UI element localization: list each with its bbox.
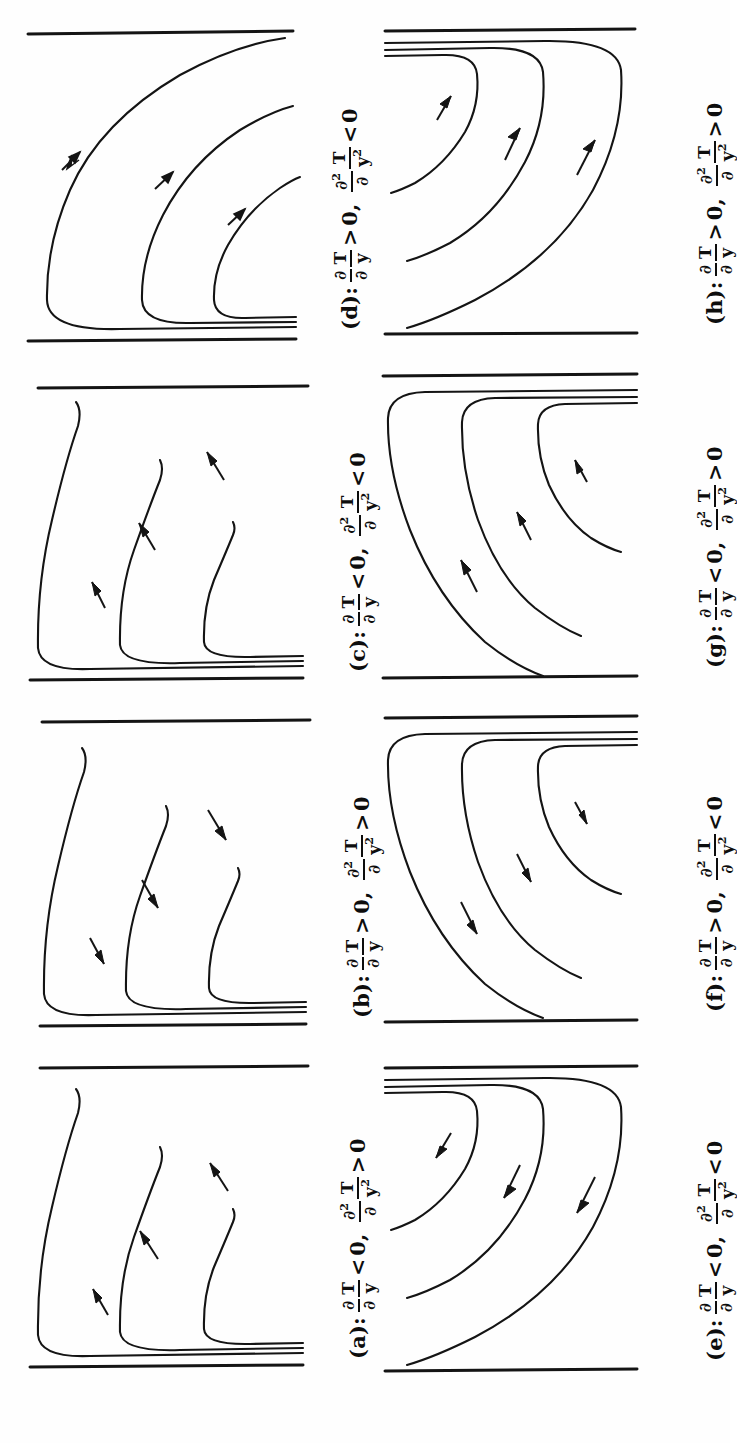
panel-g-second-den-var: y xyxy=(717,495,737,505)
panel-g-first-value: 0 xyxy=(702,549,727,564)
panel-f-second-num-var: T xyxy=(696,835,714,857)
panel-h-second-num-var: T xyxy=(696,141,714,163)
panel-e-tag: (e): xyxy=(702,1315,727,1361)
panel-a-first-num: ∂ xyxy=(340,1299,358,1312)
panel-e-second-sup: 2 xyxy=(695,1205,708,1213)
panel-c-second-num-var: T xyxy=(339,491,357,513)
panel-a-first-num-var: T xyxy=(340,1280,358,1297)
panel-h-second-num: ∂ xyxy=(696,175,716,184)
panel-e-first-value: 0 xyxy=(702,1243,727,1258)
panel-g-second-sup: 2 xyxy=(695,511,708,519)
panel-g-second-den: ∂ xyxy=(717,515,737,524)
panel-e-first-den: ∂ xyxy=(715,1301,735,1314)
panel-h-first-num: ∂ xyxy=(697,263,715,276)
panel-g-first-den: ∂ xyxy=(715,607,735,620)
panel-g-second-value: 0 xyxy=(702,446,727,461)
panel-b-first-num-var: T xyxy=(344,938,362,955)
panel-f: (f):∂∂Ty>0, ∂2∂Ty2<0 xyxy=(365,710,730,1070)
panel-h: (h):∂∂Ty>0, ∂2∂Ty2>0 xyxy=(365,0,730,360)
panel-e-first-relation: < xyxy=(703,1258,727,1281)
panel-c: (c):∂∂Ty<0, ∂2∂Ty2<0 xyxy=(0,360,365,720)
panel-g-second-den-sup: 2 xyxy=(716,487,729,495)
panel-h-label: (h):∂∂Ty>0, ∂2∂Ty2>0 xyxy=(697,102,737,325)
panel-d-second-num: ∂ xyxy=(331,181,351,190)
panel-g-second-relation: > xyxy=(703,461,727,484)
panel-f-first-num: ∂ xyxy=(697,956,715,969)
panel-g-second-num-var: T xyxy=(696,485,714,507)
panel-f-first-den-var: y xyxy=(715,937,735,954)
panel-f-first-value: 0 xyxy=(702,899,727,914)
panel-e-label: (e):∂∂Ty<0, ∂2∂Ty2<0 xyxy=(697,1140,737,1361)
panel-e-first-den-var: y xyxy=(715,1282,735,1299)
panel-b-second-num: ∂ xyxy=(343,869,363,878)
panel-g-tag: (g): xyxy=(702,621,727,668)
panel-d-tag: (d): xyxy=(337,283,362,330)
panel-f-tag: (f): xyxy=(702,971,727,1012)
panel-h-first-den: ∂ xyxy=(715,263,735,276)
panel-e-second-relation: < xyxy=(703,1155,727,1178)
panel-d: (d):∂∂Ty>0, ∂2∂Ty2<0 xyxy=(0,0,365,360)
panel-h-first-den-var: y xyxy=(715,244,735,261)
panel-a-second-num-var: T xyxy=(339,1177,357,1199)
panel-c-second-sup: 2 xyxy=(338,517,351,525)
panel-g-label: (g):∂∂Ty<0, ∂2∂Ty2>0 xyxy=(697,446,737,668)
panel-h-second-den-var: y xyxy=(717,151,737,161)
panel-b: (b):∂∂Ty>0, ∂2∂Ty2>0 xyxy=(0,710,365,1070)
panel-e-first-num: ∂ xyxy=(697,1301,715,1314)
panel-h-second-den-sup: 2 xyxy=(716,143,729,151)
panel-d-first-num-var: T xyxy=(332,250,350,267)
panel-f-second-den-sup: 2 xyxy=(716,837,729,845)
panel-e-second-den: ∂ xyxy=(717,1209,737,1218)
panel-e-second-value: 0 xyxy=(702,1140,727,1155)
panel-b-drawing xyxy=(0,710,365,1070)
panel-f-first-den: ∂ xyxy=(715,956,735,969)
panel-f-label: (f):∂∂Ty>0, ∂2∂Ty2<0 xyxy=(697,796,737,1012)
panel-g-first-relation: < xyxy=(703,564,727,587)
panel-f-first-relation: > xyxy=(703,913,727,936)
panel-b-second-sup: 2 xyxy=(342,861,355,869)
panel-d-comma: , xyxy=(337,200,362,211)
panel-h-second-sup: 2 xyxy=(695,167,708,175)
panel-e-second-num: ∂ xyxy=(696,1213,716,1222)
panel-d-drawing xyxy=(0,0,365,360)
panel-h-second-den: ∂ xyxy=(717,171,737,180)
panel-d-second-den-sup: 2 xyxy=(351,149,364,157)
panel-e: (e):∂∂Ty<0, ∂2∂Ty2<0 xyxy=(365,1063,730,1423)
panel-h-drawing xyxy=(365,0,730,360)
panel-e-comma: , xyxy=(702,1233,727,1244)
panel-d-second-value: 0 xyxy=(337,108,362,123)
panel-h-tag: (h): xyxy=(702,277,727,325)
panel-f-second-relation: < xyxy=(703,811,727,834)
panel-g-second-num: ∂ xyxy=(696,519,716,528)
panel-e-second-den-var: y xyxy=(717,1189,737,1199)
panel-a: (a):∂∂Ty<0, ∂2∂Ty2>0 xyxy=(0,1063,365,1423)
panel-g: (g):∂∂Ty<0, ∂2∂Ty2>0 xyxy=(365,360,730,720)
panel-e-second-den-sup: 2 xyxy=(716,1181,729,1189)
panel-a-drawing xyxy=(0,1063,365,1423)
panel-f-second-value: 0 xyxy=(702,796,727,811)
panel-a-second-num: ∂ xyxy=(339,1211,359,1220)
panel-c-second-num: ∂ xyxy=(339,525,359,534)
panel-g-first-den-var: y xyxy=(715,588,735,605)
panel-e-second-num-var: T xyxy=(696,1179,714,1201)
panel-h-second-relation: > xyxy=(703,117,727,140)
panel-c-first-num: ∂ xyxy=(340,613,358,626)
panel-d-first-num: ∂ xyxy=(332,269,350,282)
panel-h-comma: , xyxy=(702,195,727,206)
panel-f-second-den-var: y xyxy=(717,844,737,854)
panel-f-second-den: ∂ xyxy=(717,864,737,873)
panel-b-second-num-var: T xyxy=(343,835,361,857)
panel-d-second-num-var: T xyxy=(331,147,349,169)
panel-h-second-value: 0 xyxy=(702,102,727,117)
panel-a-second-sup: 2 xyxy=(338,1203,351,1211)
panel-g-first-num-var: T xyxy=(697,588,715,605)
panel-h-first-num-var: T xyxy=(697,244,715,261)
panel-f-drawing xyxy=(365,710,730,1070)
panel-d-second-sup: 2 xyxy=(330,173,343,181)
panel-f-comma: , xyxy=(702,888,727,899)
panel-f-first-num-var: T xyxy=(697,937,715,954)
panel-b-first-num: ∂ xyxy=(344,957,362,970)
panel-g-drawing xyxy=(365,360,730,720)
panel-c-first-num-var: T xyxy=(340,594,358,611)
